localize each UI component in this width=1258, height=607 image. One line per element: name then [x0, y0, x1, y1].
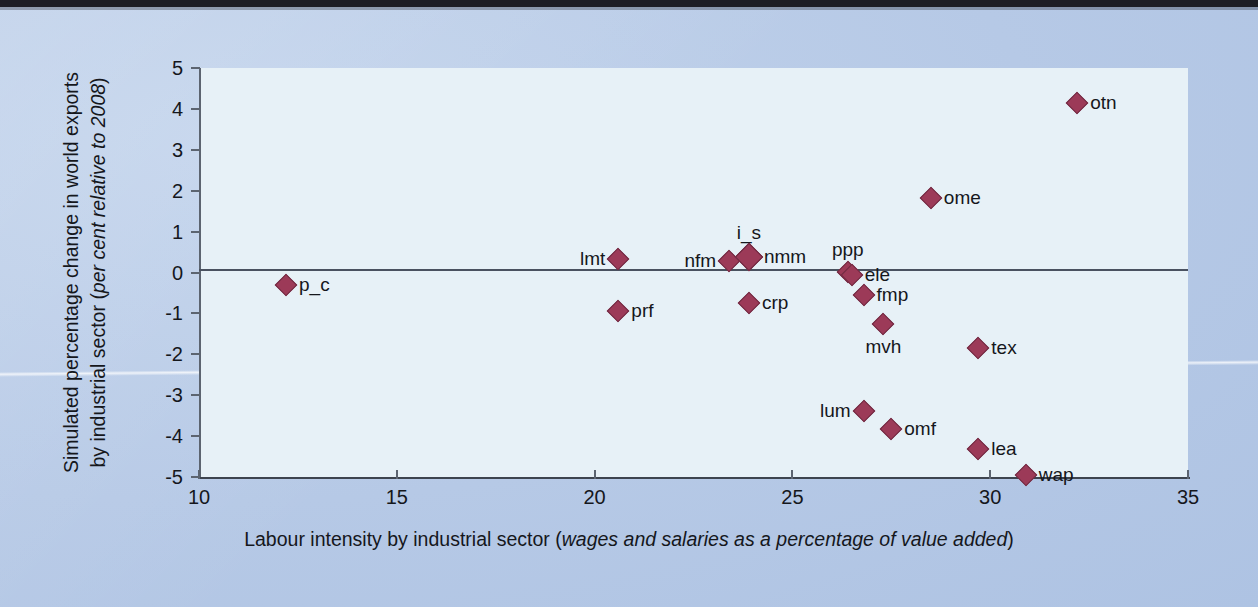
x-axis-tick: [198, 470, 200, 479]
x-axis-tick: [1187, 470, 1189, 479]
y-axis-title: Simulated percentage change in world exp…: [58, 68, 112, 477]
y-axis-title-italic: per cent relative to 2008: [87, 84, 109, 293]
data-point-label: nfm: [684, 250, 716, 272]
y-axis-tick-label: -1: [139, 302, 183, 325]
y-axis-tick-label: 3: [139, 138, 183, 161]
x-axis-tick-label: 30: [955, 486, 1025, 509]
y-axis-title-tail: ): [87, 77, 109, 84]
page-top-rule: [0, 0, 1258, 7]
x-axis-title-tail: ): [1007, 528, 1014, 550]
y-axis-tick: [191, 108, 200, 110]
data-point-label: mvh: [865, 336, 901, 358]
x-axis-tick-label: 35: [1153, 486, 1223, 509]
x-axis-tick: [594, 470, 596, 479]
data-point-label: i_s: [737, 222, 761, 244]
y-axis-tick: [191, 231, 200, 233]
data-point-label: prf: [631, 300, 653, 322]
y-axis-tick: [191, 312, 200, 314]
y-axis-title-plain: Simulated percentage change in world exp…: [60, 72, 109, 473]
data-point-label: p_c: [299, 274, 330, 296]
y-axis-tick-label: 0: [139, 261, 183, 284]
y-axis-tick: [191, 190, 200, 192]
data-point-label: lea: [991, 438, 1016, 460]
y-axis-tick-label: 1: [139, 220, 183, 243]
y-axis-tick: [191, 67, 200, 69]
y-axis-tick-label: -4: [139, 425, 183, 448]
data-point-label: ome: [944, 187, 981, 209]
data-point-label: omf: [904, 418, 936, 440]
y-axis-tick: [191, 272, 200, 274]
y-axis-tick: [191, 435, 200, 437]
x-axis-title-plain: Labour intensity by industrial sector (: [244, 528, 562, 550]
data-point-label: lmt: [580, 248, 605, 270]
y-axis-tick: [191, 353, 200, 355]
y-axis-title-wrapper: Simulated percentage change in world exp…: [58, 68, 118, 477]
y-axis-line: [199, 68, 201, 479]
y-axis-tick-label: 2: [139, 179, 183, 202]
x-axis-tick-label: 10: [164, 486, 234, 509]
y-axis-tick-label: -2: [139, 343, 183, 366]
x-axis-tick-label: 15: [362, 486, 432, 509]
y-axis-tick: [191, 394, 200, 396]
x-axis-title: Labour intensity by industrial sector (w…: [0, 528, 1258, 551]
x-axis-title-italic: wages and salaries as a percentage of va…: [562, 528, 1008, 550]
data-point-label: lum: [820, 400, 851, 422]
data-point-label: fmp: [877, 284, 909, 306]
x-axis-tick: [791, 470, 793, 479]
y-axis-tick: [191, 149, 200, 151]
x-axis-tick: [989, 470, 991, 479]
data-point-label: ppp: [832, 239, 864, 261]
y-axis-tick-label: -3: [139, 384, 183, 407]
figure-panel: 543210-1-2-3-4-5 101520253035 p_cprflmtn…: [0, 0, 1258, 607]
x-axis-tick-label: 25: [757, 486, 827, 509]
x-axis-tick: [396, 470, 398, 479]
x-axis-tick-label: 20: [560, 486, 630, 509]
plot-area: [199, 68, 1188, 477]
data-point-label: ele: [865, 264, 890, 286]
data-point-label: tex: [991, 337, 1016, 359]
y-axis-tick-label: 5: [139, 57, 183, 80]
y-axis-tick-label: 4: [139, 97, 183, 120]
data-point-label: wap: [1039, 464, 1074, 486]
data-point-label: otn: [1090, 92, 1116, 114]
data-point-label: crp: [762, 292, 788, 314]
data-point-label: nmm: [764, 246, 806, 268]
page-top-rule-shadow: [0, 7, 1258, 10]
